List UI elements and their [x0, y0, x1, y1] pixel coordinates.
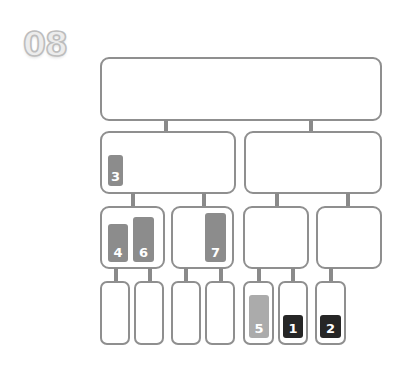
connector: [184, 268, 188, 282]
value-bar-7: 7: [205, 213, 226, 262]
value-bar-4: 4: [108, 224, 128, 262]
value-bar-1: 1: [283, 315, 303, 338]
connector: [131, 193, 135, 207]
connector: [148, 268, 152, 282]
value-bar-3: 3: [108, 155, 123, 186]
connector: [202, 193, 206, 207]
tree-node-rl: [243, 206, 309, 269]
tree-node-lrl: [171, 281, 201, 345]
connector: [114, 268, 118, 282]
tree-node-lll: [100, 281, 130, 345]
connector: [291, 268, 295, 282]
value-bar-6: 6: [133, 217, 154, 262]
step-number: 08: [23, 28, 67, 61]
tree-node-r: [244, 131, 382, 194]
connector: [329, 268, 333, 282]
connector: [257, 268, 261, 282]
tree-node-rr: [316, 206, 382, 269]
tree-node-llr: [134, 281, 164, 345]
connector: [275, 193, 279, 207]
value-bar-2: 2: [320, 315, 341, 338]
tree-node-root: [100, 57, 382, 121]
value-bar-5: 5: [249, 295, 269, 338]
connector: [219, 268, 223, 282]
connector: [346, 193, 350, 207]
tree-node-lrr: [205, 281, 235, 345]
